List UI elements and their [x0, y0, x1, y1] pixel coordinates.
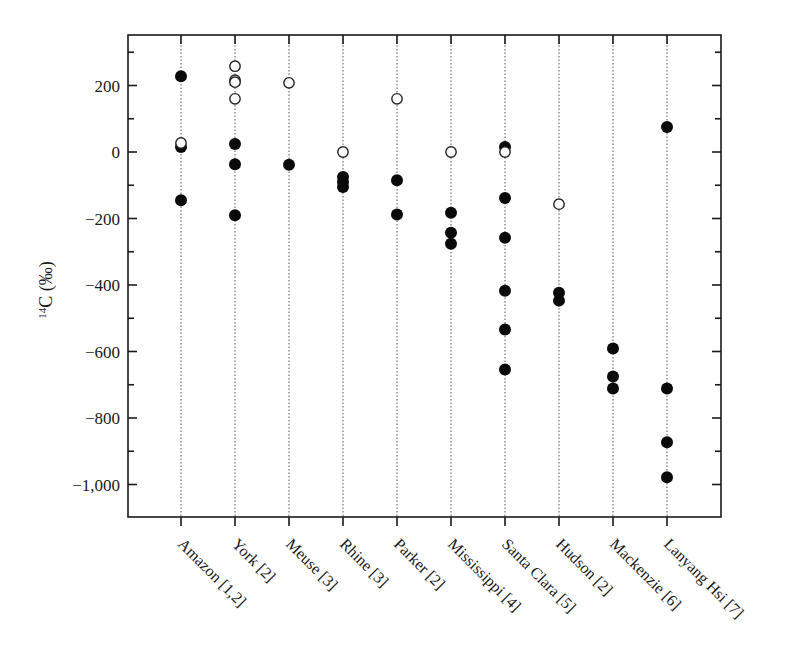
filled-circle-point — [229, 209, 241, 221]
filled-circle-point — [445, 207, 457, 219]
filled-circle-point — [499, 285, 511, 297]
open-circle-point — [500, 147, 510, 157]
open-circle-point — [554, 199, 564, 209]
scatter-chart: 2000−200−400−600−800−1,000 Amazon [1,2]Y… — [0, 0, 789, 671]
y-tick-label: −400 — [85, 276, 120, 295]
open-circle-point — [284, 78, 294, 88]
open-circle-point — [230, 77, 240, 87]
x-tick-label: York [2] — [229, 535, 279, 585]
x-tick-label: Meuse [3] — [283, 535, 341, 593]
y-tick-label: −1,000 — [72, 476, 120, 495]
filled-circle-point — [607, 382, 619, 394]
x-tick-label: Rhine [3] — [337, 535, 392, 590]
filled-circle-point — [553, 295, 565, 307]
filled-circle-point — [391, 209, 403, 221]
filled-circle-point — [499, 324, 511, 336]
filled-circle-point — [175, 70, 187, 82]
data-points — [175, 61, 673, 483]
y-tick-label: −200 — [85, 210, 120, 229]
x-tick-label: Parker [2] — [391, 535, 449, 593]
filled-circle-point — [661, 471, 673, 483]
filled-circle-point — [607, 370, 619, 382]
y-tick-label: 200 — [95, 77, 121, 96]
x-axis: Amazon [1,2]York [2]Meuse [3]Rhine [3]Pa… — [175, 35, 747, 622]
plot-frame — [128, 35, 721, 517]
filled-circle-point — [391, 174, 403, 186]
filled-circle-point — [661, 121, 673, 133]
y-tick-label: −600 — [85, 343, 120, 362]
filled-circle-point — [445, 227, 457, 239]
y-axis-label: 14C (‰) — [36, 261, 57, 319]
filled-circle-point — [283, 159, 295, 171]
category-gridlines — [181, 35, 667, 517]
filled-circle-point — [499, 192, 511, 204]
y-tick-label: 0 — [112, 143, 121, 162]
open-circle-point — [230, 94, 240, 104]
open-circle-point — [176, 138, 186, 148]
filled-circle-point — [607, 343, 619, 355]
filled-circle-point — [499, 363, 511, 375]
filled-circle-point — [499, 232, 511, 244]
filled-circle-point — [229, 158, 241, 170]
open-circle-point — [392, 94, 402, 104]
filled-circle-point — [229, 138, 241, 150]
open-circle-point — [338, 147, 348, 157]
filled-circle-point — [661, 436, 673, 448]
open-circle-point — [230, 61, 240, 71]
filled-circle-point — [661, 382, 673, 394]
filled-circle-point — [337, 181, 349, 193]
filled-circle-point — [175, 194, 187, 206]
filled-circle-point — [445, 238, 457, 250]
y-tick-label: −800 — [85, 409, 120, 428]
open-circle-point — [446, 147, 456, 157]
